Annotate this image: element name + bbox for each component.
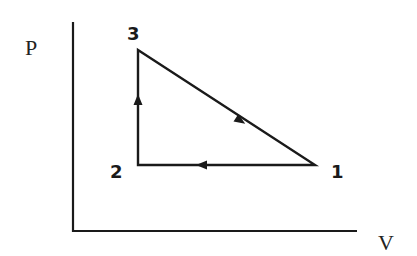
y-axis-label: P xyxy=(25,35,37,60)
point-label-3: 3 xyxy=(127,23,140,44)
arrow-up-icon xyxy=(134,94,143,105)
pv-diagram: P V 3 2 1 xyxy=(0,0,417,256)
thermodynamic-cycle xyxy=(138,50,315,165)
arrow-left-icon xyxy=(196,161,207,170)
point-label-1: 1 xyxy=(331,161,344,182)
point-label-2: 2 xyxy=(110,161,123,182)
x-axis-label: V xyxy=(378,230,394,255)
